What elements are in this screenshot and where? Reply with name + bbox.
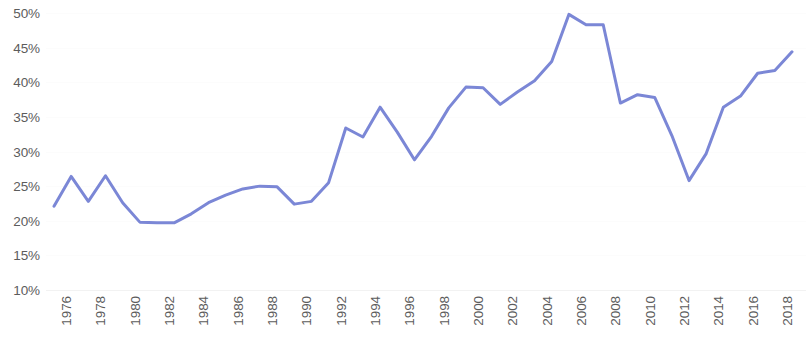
x-axis-tick-label: 1978 <box>93 296 108 326</box>
x-axis-tick-label: 2000 <box>471 296 486 326</box>
x-axis-tick-label: 2006 <box>574 296 589 326</box>
x-axis-tick-label: 1996 <box>402 296 417 326</box>
x-axis-tick-label: 1976 <box>59 296 74 326</box>
y-axis-tick-label: 35% <box>13 109 40 124</box>
x-axis-tick-label: 1984 <box>196 296 211 326</box>
x-axis-tick-label: 2014 <box>711 296 726 326</box>
series-line-1 <box>54 14 792 222</box>
plot-area <box>46 0 806 292</box>
x-axis-tick-label: 2016 <box>746 296 761 326</box>
y-axis-tick-label: 25% <box>13 179 40 194</box>
x-axis-tick-label: 2004 <box>540 296 555 326</box>
x-axis-tick-label: 1986 <box>231 296 246 326</box>
series-line-group <box>46 0 806 292</box>
x-axis: 1976197819801982198419861988199019921994… <box>46 292 806 342</box>
x-axis-tick-label: 1982 <box>162 296 177 326</box>
y-axis-tick-label: 40% <box>13 75 40 90</box>
line-chart: 50%45%40%35%30%25%20%15%10% 197619781980… <box>0 0 806 342</box>
axis-baseline <box>46 290 806 291</box>
y-axis-tick-label: 45% <box>13 40 40 55</box>
y-axis-tick-label: 10% <box>13 283 40 298</box>
x-axis-tick-label: 2002 <box>505 296 520 326</box>
x-axis-tick-label: 2010 <box>643 296 658 326</box>
x-axis-tick-label: 2012 <box>677 296 692 326</box>
x-axis-tick-label: 1990 <box>299 296 314 326</box>
x-axis-tick-label: 1980 <box>128 296 143 326</box>
y-axis-tick-label: 20% <box>13 213 40 228</box>
x-axis-tick-label: 1998 <box>437 296 452 326</box>
y-axis-tick-label: 50% <box>13 6 40 21</box>
x-axis-tick-label: 1994 <box>368 296 383 326</box>
y-axis-tick-label: 30% <box>13 144 40 159</box>
x-axis-tick-label: 2008 <box>608 296 623 326</box>
x-axis-tick-label: 1988 <box>265 296 280 326</box>
x-axis-tick-label: 1992 <box>334 296 349 326</box>
y-axis-tick-label: 15% <box>13 248 40 263</box>
x-axis-tick-label: 2018 <box>780 296 795 326</box>
y-axis: 50%45%40%35%30%25%20%15%10% <box>0 0 46 300</box>
